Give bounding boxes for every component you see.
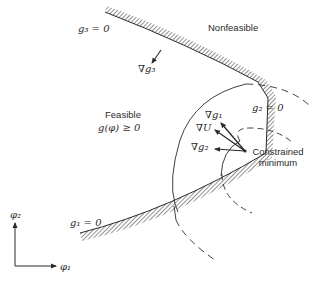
constrained-minimum-label-line1: Constrained	[250, 147, 306, 157]
constrained-minimum-label-line2: minimum	[250, 158, 306, 168]
g2-boundary-label: g₂ = 0	[252, 103, 284, 113]
g3-constraint-band	[105, 6, 266, 82]
objective-contour-dashed-inner	[238, 128, 292, 142]
grad-u-label: ∇U	[196, 123, 211, 133]
phi2-axis-label: φ₂	[10, 210, 21, 220]
phi1-axis-label: φ₁	[60, 262, 71, 272]
grad-g1-label: ∇g₁	[205, 110, 222, 120]
grad-g3-label: ∇g₃	[138, 64, 155, 74]
g3-boundary-label: g₃ = 0	[78, 24, 110, 34]
grad-g3-arrow	[152, 50, 161, 63]
g2-corner-band	[258, 80, 276, 98]
objective-contour-dashed-outer-lower	[176, 220, 218, 262]
constraint-diagram	[0, 0, 323, 283]
g1-boundary-label: g₁ = 0	[70, 218, 102, 228]
feasible-condition: g(φ) ≥ 0	[98, 123, 140, 133]
nonfeasible-label: Nonfeasible	[208, 23, 258, 33]
constrained-minimum-point	[243, 149, 246, 152]
feasible-label: Feasible	[103, 110, 143, 120]
grad-g2-label: ∇g₂	[191, 142, 208, 152]
